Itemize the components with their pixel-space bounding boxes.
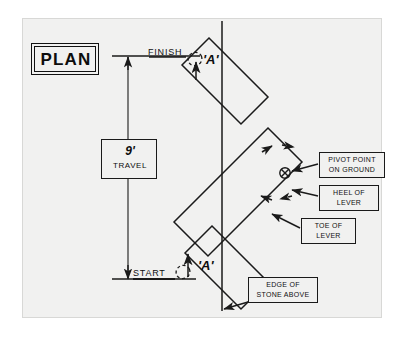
callout-pivot-point-line1: PIVOT POINT <box>323 155 381 165</box>
plan-title-box: PLAN <box>31 43 99 75</box>
callout-edge-of-stone: EDGE OF STONE ABOVE <box>248 277 318 303</box>
callout-heel-of-lever: HEEL OF LEVER <box>319 185 379 211</box>
callout-pivot-point-line2: ON GROUND <box>323 165 381 175</box>
callout-edge-line1: EDGE OF <box>252 280 314 290</box>
pivot-point-marker <box>280 168 290 178</box>
callout-heel-line1: HEEL OF <box>323 188 375 198</box>
page-title: PLAN <box>32 44 100 76</box>
callout-toe-of-lever: TOE OF LEVER <box>301 218 356 244</box>
leader-heel-of-lever <box>292 190 318 196</box>
finish-label: FINISH <box>148 47 182 57</box>
leader-toe-of-lever <box>272 214 300 228</box>
callout-pivot-point: PIVOT POINT ON GROUND <box>319 152 385 178</box>
travel-distance-value: 9' <box>102 144 158 158</box>
callout-heel-line2: LEVER <box>323 198 375 208</box>
lever-finish-position <box>182 38 268 124</box>
section-marker-a-start: 'A' <box>198 258 214 273</box>
callout-edge-line2: STONE ABOVE <box>252 290 314 300</box>
roller-marker-start <box>174 263 192 281</box>
travel-dimension-box: 9' TRAVEL <box>101 139 157 179</box>
callout-toe-line2: LEVER <box>305 231 352 241</box>
drawing-screenshot: PLAN FINISH START 9' TRAVEL 'A' 'A' PIVO… <box>0 0 404 344</box>
lever-travel-body <box>174 128 302 256</box>
roller-marker-finish <box>186 50 204 68</box>
section-marker-a-finish: 'A' <box>203 52 219 67</box>
start-label: START <box>133 268 166 278</box>
travel-label: TRAVEL <box>102 161 158 170</box>
callout-toe-line1: TOE OF <box>305 221 352 231</box>
